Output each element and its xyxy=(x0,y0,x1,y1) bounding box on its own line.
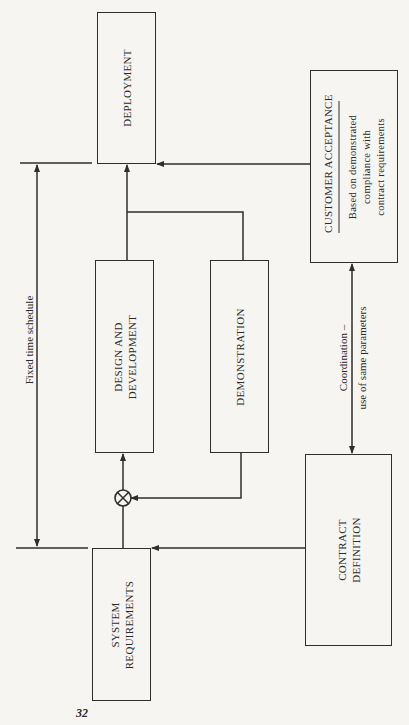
coordination-label-2: use of same parameters xyxy=(356,307,369,410)
customer-acceptance-subtitle-3: contract requirements xyxy=(374,118,388,216)
design-development-label-2: DEVELOPMENT xyxy=(125,314,139,399)
customer-acceptance-subtitle-2: compliance with xyxy=(360,129,374,203)
system-requirements-label-1: SYSTEM xyxy=(108,580,122,669)
coordination-label-1: Coordination – xyxy=(337,307,350,410)
demonstration-to-deployment-line xyxy=(127,212,243,260)
contract-definition-box: CONTRACT DEFINITION xyxy=(305,454,392,646)
summing-junction-icon xyxy=(115,490,131,506)
design-development-label-1: DESIGN AND xyxy=(111,314,125,399)
deployment-label: DEPLOYMENT xyxy=(120,49,134,127)
system-requirements-box: SYSTEM REQUIREMENTS xyxy=(92,548,151,701)
system-requirements-label-2: REQUIREMENTS xyxy=(122,580,136,669)
customer-acceptance-box: CUSTOMER ACCEPTANCE Based on demonstrate… xyxy=(310,70,398,263)
design-development-box: DESIGN AND DEVELOPMENT xyxy=(95,260,154,453)
demonstration-to-junction-arrow xyxy=(131,452,241,498)
customer-acceptance-title: CUSTOMER ACCEPTANCE xyxy=(321,101,340,233)
coordination-label: Coordination – use of same parameters xyxy=(337,307,369,410)
page-number: 32 xyxy=(76,706,88,721)
contract-definition-label-2: DEFINITION xyxy=(349,517,363,582)
deployment-box: DEPLOYMENT xyxy=(97,12,156,164)
demonstration-label: DEMONSTRATION xyxy=(233,308,247,405)
customer-acceptance-subtitle-1: Based on demonstrated xyxy=(346,114,360,218)
fixed-time-schedule-label: Fixed time schedule xyxy=(23,296,36,385)
demonstration-box: DEMONSTRATION xyxy=(210,260,269,453)
contract-definition-label-1: CONTRACT xyxy=(335,517,349,582)
